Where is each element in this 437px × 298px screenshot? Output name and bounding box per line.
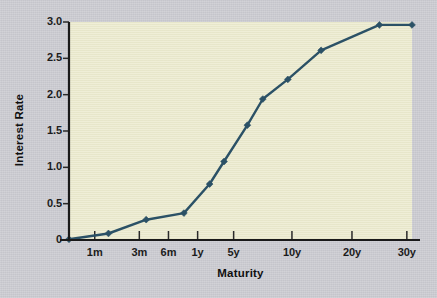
y-tick-label: 3.0	[20, 15, 62, 27]
x-tick-label: 1y	[178, 246, 218, 258]
y-tick-label: 0.5	[20, 197, 62, 209]
axis-ticks	[63, 22, 407, 240]
data-point-markers	[66, 22, 416, 243]
y-tick-label: 1.5	[20, 124, 62, 136]
y-tick-label: 0	[20, 233, 62, 245]
data-point-30y	[409, 22, 416, 29]
x-tick-label: 30y	[387, 246, 427, 258]
x-tick-label: 1m	[75, 246, 115, 258]
x-axis-title: Maturity	[69, 267, 412, 279]
data-point-3m	[105, 230, 112, 237]
data-point-6m	[143, 216, 150, 223]
y-tick-label: 2.0	[20, 88, 62, 100]
x-tick-label: 10y	[272, 246, 312, 258]
x-tick-label: 20y	[332, 246, 372, 258]
yield-curve-figure: 00.51.01.52.02.53.0 1m3m6m1y5y10y20y30y …	[0, 0, 437, 298]
x-tick-label: 5y	[214, 246, 254, 258]
y-axis-title: Interest Rate	[13, 70, 25, 190]
data-point-20y	[376, 22, 383, 29]
y-tick-label: 1.0	[20, 160, 62, 172]
yield-curve-line	[69, 25, 412, 239]
y-tick-label: 2.5	[20, 51, 62, 63]
